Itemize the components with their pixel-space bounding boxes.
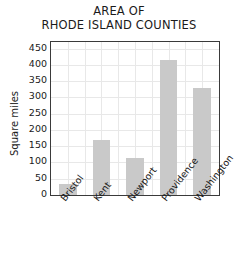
y-axis-tick-labels: 050100150200250300350400450 — [22, 46, 49, 196]
bar-chart-figure: AREA OF RHODE ISLAND COUNTIES Square mil… — [0, 0, 238, 263]
y-axis-title: Square miles — [8, 48, 22, 198]
y-axis-tick-label: 300 — [29, 92, 47, 102]
y-axis-tick-label: 450 — [29, 43, 47, 53]
y-axis-tick-label: 350 — [29, 75, 47, 85]
y-axis-tick-label: 200 — [29, 124, 47, 134]
y-axis-tick-label: 250 — [29, 108, 47, 118]
y-axis-tick-label: 0 — [41, 189, 47, 199]
y-axis-title-label: Square miles — [10, 90, 21, 155]
x-axis-tick-labels: BristolKentNewportProvidenceWashington — [50, 197, 238, 263]
y-axis-tick-label: 100 — [29, 157, 47, 167]
chart-title: AREA OF RHODE ISLAND COUNTIES — [0, 4, 238, 32]
chart-title-line-2: RHODE ISLAND COUNTIES — [0, 18, 238, 32]
y-axis-tick-label: 400 — [29, 59, 47, 69]
chart-title-line-1: AREA OF — [0, 4, 238, 18]
y-axis-tick-label: 50 — [35, 173, 47, 183]
y-axis-tick-label: 150 — [29, 140, 47, 150]
